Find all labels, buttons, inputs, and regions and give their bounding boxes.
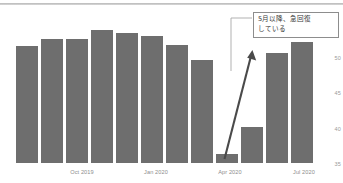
bar [141,36,163,163]
y-axis-tick-label: 45 [327,90,341,96]
bar [241,127,263,163]
recovery-callout-box[interactable]: 5月以降、急回復 している [253,12,339,38]
bar [191,60,213,163]
bar [91,30,113,163]
bar [66,39,88,163]
bar [291,42,313,163]
bar [166,45,188,163]
bar [266,53,288,163]
bar [116,33,138,163]
x-axis-tick-label: Apr 2020 [200,169,260,176]
bar [16,46,38,163]
x-axis-tick-label: Oct 2019 [52,169,112,176]
bar-chart: 50454035 Oct 2019Jan 2020Apr 2020Jul 202… [0,0,343,183]
recovery-callout-text: 5月以降、急回復 している [258,15,335,34]
y-axis-tick-label: 40 [327,126,341,132]
y-axis-tick-label: 50 [327,55,341,61]
bar [41,39,63,163]
x-axis-tick-label: Jan 2020 [126,169,186,176]
x-axis-tick-label: Jul 2020 [274,169,334,176]
bar [216,154,238,163]
y-axis-tick-label: 35 [327,161,341,167]
